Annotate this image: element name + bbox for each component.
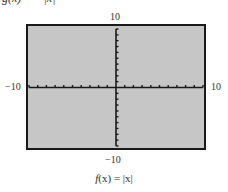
equals-sign: = — [111, 172, 123, 184]
axes-group — [29, 29, 203, 146]
x-min-label: −10 — [5, 81, 21, 92]
y-max-label: 10 — [110, 11, 120, 22]
function-arg: (x) — [98, 172, 111, 184]
y-min-label: −10 — [105, 154, 121, 165]
function-caption: f(x) = |x| — [0, 172, 228, 184]
function-body: |x| — [123, 172, 133, 184]
x-max-label: 10 — [211, 81, 221, 92]
